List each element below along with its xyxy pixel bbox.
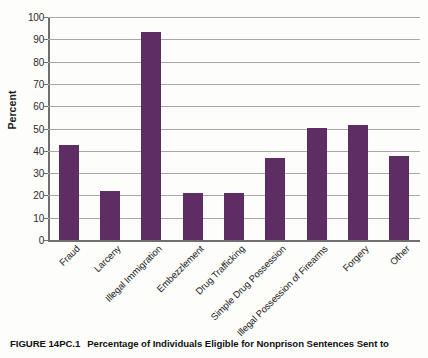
figure-caption-text: Percentage of Individuals Eligible for N… [87,338,389,349]
y-tick-label: 70 [2,78,44,89]
bar [59,145,79,240]
y-tick-label: 10 [2,212,44,223]
x-tick-label: Larceny [92,243,123,274]
plot-area [48,17,420,240]
y-tick-label: 60 [2,101,44,112]
y-tick-label: 90 [2,34,44,45]
y-tick-label: 30 [2,168,44,179]
gridline [48,106,420,107]
gridline [48,62,420,63]
y-tick-label: 80 [2,56,44,67]
y-axis-tick-labels: 1009080706050403020100 [0,17,44,240]
y-tick-label: 20 [2,190,44,201]
y-tick-label: 100 [2,12,44,23]
bar [224,193,244,240]
x-tick-label: Other [388,243,412,267]
gridline [48,39,420,40]
x-tick-label: Fraud [56,243,81,268]
x-tick-label: Forgery [340,243,370,273]
x-tick-label: Illegal Possession of Firearms [234,243,329,338]
bar [307,128,327,240]
gridline [48,17,420,18]
bar [183,193,203,240]
x-axis-tick-labels: FraudLarcenyIllegal ImmigrationEmbezzlem… [0,243,428,335]
y-tick-label: 40 [2,145,44,156]
gridline [48,240,420,242]
bar [100,191,120,240]
bar-chart: Percent 1009080706050403020100 FraudLarc… [0,0,428,250]
figure-caption: FIGURE 14PC.1Percentage of Individuals E… [10,338,425,349]
y-tick-label: 50 [2,123,44,134]
bar [141,32,161,241]
bar [348,125,368,240]
figure-number: FIGURE 14PC.1 [10,338,80,349]
bar [389,156,409,240]
x-tick-label: Simple Drug Possession [209,243,288,322]
gridline [48,84,420,85]
bar [265,158,285,241]
figure-page: Percent 1009080706050403020100 FraudLarc… [0,0,428,358]
